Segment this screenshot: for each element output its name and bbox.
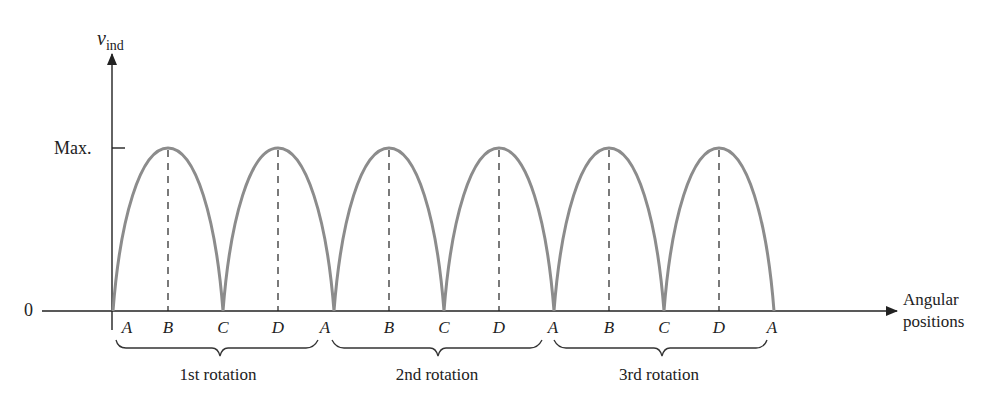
chart-svg <box>0 0 1001 406</box>
y-max-label: Max. <box>54 138 92 159</box>
point-label: A <box>548 318 558 338</box>
point-label: C <box>438 318 449 338</box>
point-label: D <box>493 318 505 338</box>
point-label: A <box>320 318 330 338</box>
rotation-label-3: 3rd rotation <box>619 365 699 385</box>
rotation-label-2: 2nd rotation <box>396 365 479 385</box>
y-axis-label: vind <box>97 27 124 54</box>
point-label: B <box>604 318 614 338</box>
point-label: C <box>658 318 669 338</box>
y-zero-label: 0 <box>24 300 33 321</box>
rotation-braces <box>116 340 767 356</box>
rotation-label-1: 1st rotation <box>180 365 257 385</box>
point-label: A <box>122 318 132 338</box>
point-label: B <box>384 318 394 338</box>
point-label: D <box>713 318 725 338</box>
point-label: A <box>767 318 777 338</box>
point-label: D <box>272 318 284 338</box>
vind-curve <box>113 148 774 311</box>
x-axis-label-line2: positions <box>903 312 964 332</box>
y-label-main: v <box>97 27 106 49</box>
x-axis-label-line1: Angular <box>903 290 959 310</box>
point-label: B <box>163 318 173 338</box>
point-label: C <box>217 318 228 338</box>
y-label-sub: ind <box>106 38 124 53</box>
